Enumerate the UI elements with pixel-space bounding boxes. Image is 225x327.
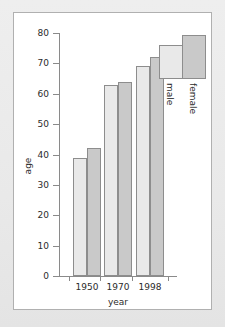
y-tick: 60 [53, 94, 59, 95]
y-tick: 50 [53, 124, 59, 125]
bar-male-1950 [73, 158, 87, 276]
x-tick [168, 276, 169, 281]
x-axis-line [59, 276, 177, 277]
y-tick: 20 [53, 215, 59, 216]
x-tick [132, 276, 133, 281]
plot-area: 01020304050607080 195019701998 age year … [14, 13, 211, 309]
y-tick-label: 30 [38, 180, 49, 189]
x-tick [69, 276, 70, 281]
y-axis-line [59, 33, 60, 277]
y-tick: 10 [53, 246, 59, 247]
y-axis-label: age [23, 158, 33, 175]
y-tick: 0 [53, 276, 59, 277]
chart-panel: 01020304050607080 195019701998 age year … [13, 12, 212, 310]
legend-swatch-female [182, 35, 206, 79]
y-tick: 70 [53, 63, 59, 64]
bar-female-1970 [118, 82, 132, 276]
bar-male-1970 [104, 85, 118, 276]
legend-swatch-male [159, 45, 183, 79]
x-axis-label: year [108, 297, 128, 307]
y-tick-label: 40 [38, 150, 49, 159]
y-tick: 40 [53, 155, 59, 156]
legend-label-male: male [165, 83, 175, 105]
y-tick-label: 20 [38, 211, 49, 220]
y-tick: 80 [53, 33, 59, 34]
y-tick-label: 70 [38, 59, 49, 68]
x-tick-label: 1970 [107, 283, 130, 292]
legend-label-female: female [188, 83, 198, 114]
y-tick: 30 [53, 185, 59, 186]
x-tick-label: 1950 [76, 283, 99, 292]
legend: male female [159, 31, 207, 123]
bar-male-1998 [136, 66, 150, 276]
bar-female-1950 [87, 148, 101, 276]
y-tick-label: 0 [43, 272, 49, 281]
y-tick-label: 50 [38, 120, 49, 129]
x-tick [100, 276, 101, 281]
y-tick-label: 10 [38, 241, 49, 250]
y-tick-label: 60 [38, 89, 49, 98]
x-tick-label: 1998 [139, 283, 162, 292]
y-tick-label: 80 [38, 29, 49, 38]
